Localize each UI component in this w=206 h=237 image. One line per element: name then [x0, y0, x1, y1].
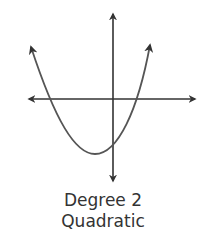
- caption-degree: Degree 2: [0, 190, 206, 210]
- caption-type: Quadratic: [0, 211, 206, 231]
- quadratic-graph: [0, 0, 206, 190]
